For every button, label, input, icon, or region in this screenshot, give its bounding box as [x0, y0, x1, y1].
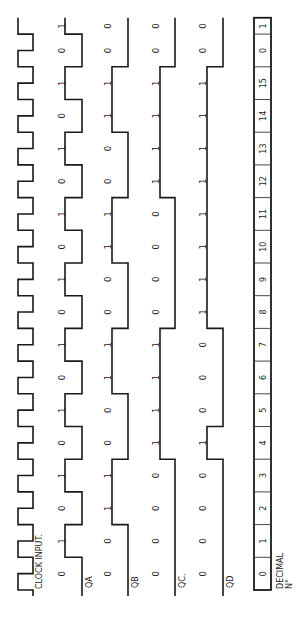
clock-waveform-line [18, 18, 33, 596]
signal-qb-line [112, 18, 128, 596]
decimal-cell: 8 [259, 310, 268, 315]
bit-value: 0 [151, 211, 161, 216]
decimal-number-row: 012345678910111213141501 DECIMAL N° [254, 18, 294, 590]
bit-value: 1 [198, 277, 208, 282]
decimal-cell: 3 [259, 473, 268, 478]
clock-input-label: CLOCK INPUT. [35, 534, 44, 589]
bit-value: 1 [57, 80, 67, 85]
bit-value: 1 [103, 375, 113, 380]
decimal-cell: 1 [259, 538, 268, 543]
bit-value: 0 [57, 309, 67, 314]
bit-value: 1 [57, 473, 67, 478]
bit-value: 0 [57, 244, 67, 249]
decimal-cell: 0 [259, 571, 268, 576]
bit-value: 1 [103, 473, 113, 478]
bit-value: 0 [103, 538, 113, 543]
decimal-cell: 4 [259, 440, 268, 445]
bit-value: 1 [151, 375, 161, 380]
bit-value: 1 [151, 179, 161, 184]
signal-qa-label: QA [85, 576, 94, 588]
bit-value: 1 [198, 244, 208, 249]
bit-value: 0 [103, 440, 113, 445]
bit-value: 0 [198, 23, 208, 28]
bit-value: 0 [151, 571, 161, 576]
bit-value: 0 [57, 440, 67, 445]
signal-qc-line [160, 18, 175, 596]
bit-value: 1 [151, 342, 161, 347]
signal-qb-waveform: 001100110011001100QB [103, 18, 140, 596]
decimal-cell: 14 [259, 111, 268, 121]
bit-value: 1 [198, 179, 208, 184]
bit-value: 0 [198, 571, 208, 576]
decimal-cell: 7 [259, 342, 268, 347]
bit-value: 1 [198, 309, 208, 314]
signal-qd-waveform: 000010001111111100QD [198, 18, 235, 596]
decimal-cell: 0 [259, 48, 268, 53]
bit-value: 1 [57, 23, 67, 28]
bit-value: 0 [151, 309, 161, 314]
bit-value: 0 [198, 407, 208, 412]
decimal-cell: 2 [259, 506, 268, 511]
bit-value: 0 [103, 48, 113, 53]
bit-value: 1 [103, 342, 113, 347]
bit-value: 1 [151, 440, 161, 445]
bit-value: 1 [151, 146, 161, 151]
bit-value: 1 [57, 342, 67, 347]
decimal-cell: 13 [259, 143, 268, 153]
bit-value: 0 [198, 538, 208, 543]
bit-value: 1 [57, 538, 67, 543]
decimal-box [254, 18, 271, 590]
bit-value: 1 [57, 407, 67, 412]
decimal-label: DECIMAL [276, 552, 285, 589]
bit-value: 0 [103, 179, 113, 184]
decimal-cell: 11 [259, 209, 268, 219]
bit-value: 1 [151, 80, 161, 85]
bit-value: 0 [57, 571, 67, 576]
bit-value: 1 [103, 113, 113, 118]
decimal-cell: 9 [259, 277, 268, 282]
decimal-cell: 6 [259, 375, 268, 380]
bit-value: 0 [151, 48, 161, 53]
bit-value: 0 [57, 113, 67, 118]
bit-value: 0 [151, 473, 161, 478]
signal-qd-line [207, 18, 223, 596]
decimal-cell: 10 [259, 242, 268, 252]
signal-qa-line [65, 18, 82, 596]
signal-qc-label: QC. [178, 574, 187, 588]
clock-input-waveform: CLOCK INPUT. [18, 18, 44, 596]
bit-value: 1 [198, 211, 208, 216]
signal-qa-waveform: 010101010101010101QA [57, 18, 95, 596]
bit-value: 0 [151, 23, 161, 28]
bit-value: 0 [57, 179, 67, 184]
bit-value: 0 [151, 244, 161, 249]
signal-qd-label: QD [226, 576, 235, 588]
bit-value: 0 [198, 375, 208, 380]
bit-value: 1 [103, 244, 113, 249]
bit-value: 1 [198, 113, 208, 118]
bit-value: 1 [103, 506, 113, 511]
bit-value: 1 [57, 211, 67, 216]
decimal-no-label: N° [285, 579, 294, 589]
bit-value: 1 [151, 407, 161, 412]
bit-value: 0 [103, 277, 113, 282]
bit-value: 1 [103, 211, 113, 216]
bit-value: 0 [151, 538, 161, 543]
decimal-cell: 15 [259, 78, 268, 88]
signal-qc-waveform: 000011110000111100QC. [151, 18, 188, 596]
signal-qb-label: QB [131, 576, 140, 588]
bit-value: 1 [57, 146, 67, 151]
bit-value: 0 [57, 48, 67, 53]
bit-value: 0 [57, 375, 67, 380]
bit-value: 1 [57, 277, 67, 282]
bit-value: 0 [198, 342, 208, 347]
bit-value: 0 [103, 407, 113, 412]
bit-value: 0 [151, 277, 161, 282]
bit-value: 0 [198, 473, 208, 478]
decimal-cell: 12 [259, 176, 268, 186]
decimal-cell: 5 [259, 408, 268, 413]
bit-value: 0 [151, 506, 161, 511]
bit-value: 0 [198, 48, 208, 53]
bit-value: 0 [103, 146, 113, 151]
decimal-cell: 1 [259, 23, 268, 28]
bit-value: 1 [198, 146, 208, 151]
